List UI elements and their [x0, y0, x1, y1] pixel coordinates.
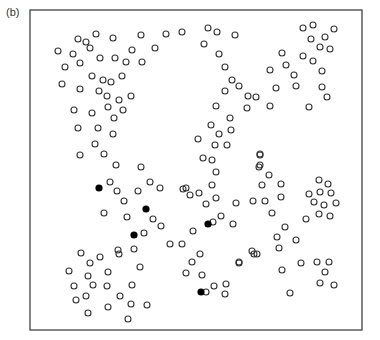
open-data-point — [328, 190, 334, 196]
open-data-point — [279, 50, 285, 56]
filled-circle-series — [95, 184, 211, 295]
open-data-point — [308, 36, 314, 42]
open-data-point — [216, 51, 222, 57]
open-data-point — [97, 254, 103, 260]
open-data-point — [205, 25, 211, 31]
open-data-point — [107, 179, 113, 185]
open-data-point — [324, 94, 330, 100]
open-data-point — [116, 97, 122, 103]
open-data-point — [267, 67, 273, 73]
open-data-point — [267, 103, 273, 109]
open-data-point — [75, 36, 81, 42]
filled-data-point — [95, 184, 102, 191]
open-data-point — [141, 230, 147, 236]
open-data-point — [97, 55, 103, 61]
open-data-point — [293, 237, 299, 243]
open-data-point — [113, 162, 119, 168]
open-data-point — [92, 141, 98, 147]
open-data-point — [331, 282, 337, 288]
filled-data-point — [204, 220, 211, 227]
open-data-point — [95, 125, 101, 131]
open-data-point — [105, 104, 111, 110]
open-data-point — [66, 268, 72, 274]
open-data-point — [224, 142, 230, 148]
open-data-point — [214, 29, 220, 35]
open-data-point — [167, 241, 173, 247]
open-data-point — [298, 260, 304, 266]
open-data-point — [222, 64, 228, 70]
open-data-point — [89, 110, 95, 116]
open-data-point — [228, 127, 234, 133]
open-data-point — [105, 304, 111, 310]
open-data-point — [124, 214, 130, 220]
open-data-point — [59, 81, 65, 87]
open-data-point — [212, 142, 218, 148]
open-data-point — [229, 77, 235, 83]
open-data-point — [306, 191, 312, 197]
open-data-point — [244, 105, 250, 111]
open-data-point — [253, 94, 259, 100]
open-data-point — [201, 41, 207, 47]
open-data-point — [70, 51, 76, 57]
open-data-point — [310, 22, 316, 28]
open-data-point — [197, 251, 203, 257]
open-data-point — [129, 282, 135, 288]
open-data-point — [311, 199, 317, 205]
open-data-point — [104, 283, 110, 289]
open-data-point — [319, 68, 325, 74]
open-data-point — [179, 241, 185, 247]
open-data-point — [279, 267, 285, 273]
open-data-point — [114, 188, 120, 194]
open-data-point — [209, 182, 215, 188]
open-data-point — [138, 164, 144, 170]
open-data-point — [245, 93, 251, 99]
open-data-point — [190, 228, 196, 234]
open-data-point — [139, 59, 145, 65]
open-data-point — [137, 264, 143, 270]
open-data-point — [87, 260, 93, 266]
open-data-point — [157, 185, 163, 191]
open-data-point — [138, 32, 144, 38]
open-data-point — [187, 192, 193, 198]
open-data-point — [189, 259, 195, 265]
open-data-point — [111, 115, 117, 121]
filled-data-point — [130, 231, 137, 238]
open-data-point — [77, 152, 83, 158]
open-data-point — [93, 31, 99, 37]
open-data-point — [131, 246, 137, 252]
open-data-point — [218, 213, 224, 219]
open-data-point — [83, 39, 89, 45]
scatter-plot — [0, 0, 380, 340]
open-data-point — [303, 216, 309, 222]
open-data-point — [322, 269, 328, 275]
open-data-point — [112, 55, 118, 61]
open-data-point — [119, 73, 125, 79]
open-data-point — [222, 88, 228, 94]
open-data-point — [96, 88, 102, 94]
open-data-point — [327, 213, 333, 219]
open-data-point — [306, 104, 312, 110]
open-data-point — [262, 198, 268, 204]
open-data-point — [317, 189, 323, 195]
open-data-point — [300, 25, 306, 31]
open-data-point — [147, 179, 153, 185]
open-data-point — [101, 151, 107, 157]
open-data-point — [71, 283, 77, 289]
open-data-point — [331, 26, 337, 32]
open-data-point — [152, 45, 158, 51]
open-data-point — [115, 247, 121, 253]
open-data-point — [278, 181, 284, 187]
open-data-point — [73, 297, 79, 303]
open-data-point — [117, 293, 123, 299]
open-data-point — [55, 48, 61, 54]
open-data-point — [104, 93, 110, 99]
open-data-point — [266, 172, 272, 178]
open-data-point — [144, 302, 150, 308]
open-data-point — [283, 62, 289, 68]
open-data-point — [90, 282, 96, 288]
open-data-point — [135, 188, 141, 194]
open-data-point — [77, 86, 83, 92]
open-data-point — [75, 125, 81, 131]
open-data-point — [316, 211, 322, 217]
open-data-point — [333, 200, 339, 206]
